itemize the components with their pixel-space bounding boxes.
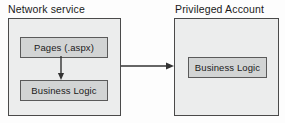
network-service-title: Network service [8, 3, 85, 15]
arrow-down-icon-pages-to-business-logic [56, 56, 66, 82]
pages-aspx-label: Pages (.aspx) [34, 43, 94, 53]
privileged-account-title: Privileged Account [175, 3, 264, 15]
architecture-diagram: Network service Privileged Account Pages… [0, 0, 285, 123]
business-logic-node-network-service: Business Logic [20, 80, 108, 101]
pages-aspx-node: Pages (.aspx) [20, 37, 108, 58]
business-logic-node-privileged-account: Business Logic [188, 57, 267, 78]
arrow-right-icon-network-service-to-privileged-account [121, 60, 176, 72]
business-logic-label-network-service: Business Logic [31, 86, 96, 96]
business-logic-label-privileged-account: Business Logic [195, 63, 260, 73]
